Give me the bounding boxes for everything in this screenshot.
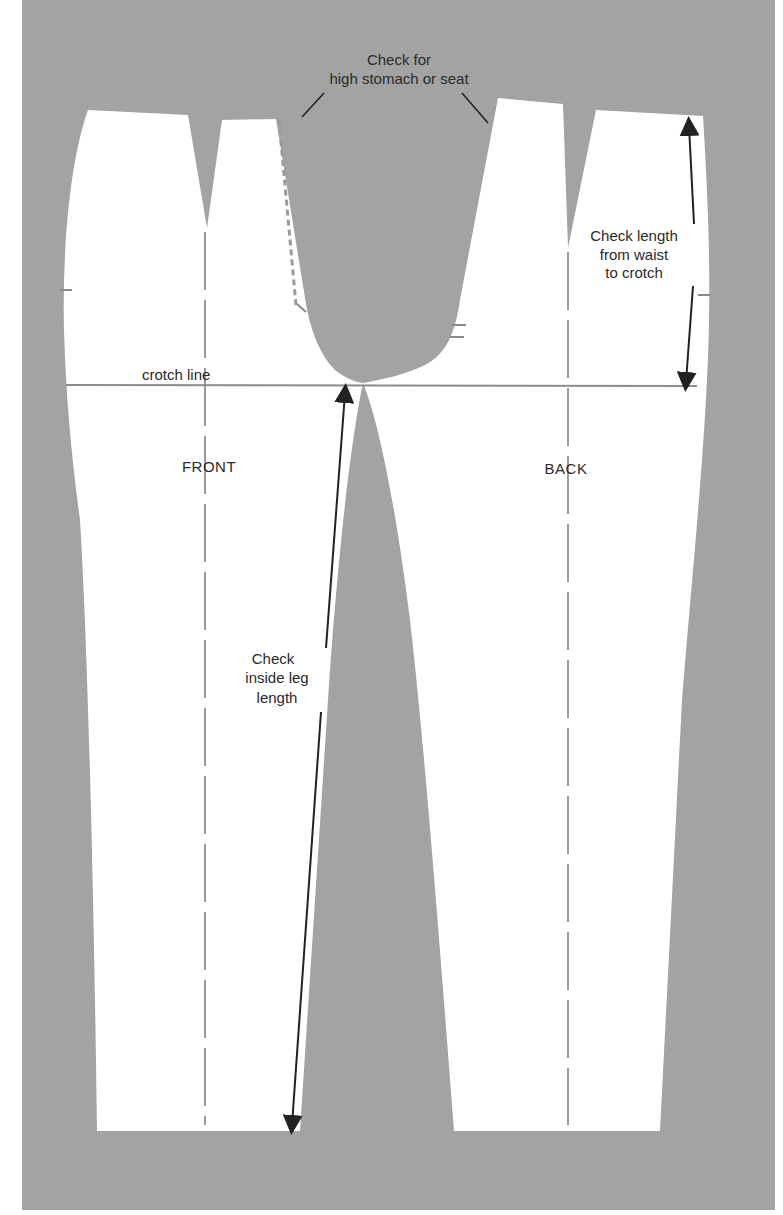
inside-leg-label-line1: Check <box>252 650 295 667</box>
crotch-line <box>66 385 697 386</box>
crotch-line-label: crotch line <box>142 366 210 383</box>
waist-crotch-label-line2: from waist <box>600 246 669 263</box>
front-label: FRONT <box>182 458 236 475</box>
diagram-canvas: Check for high stomach or seat Check len… <box>0 0 783 1215</box>
trouser-pattern-diagram: Check for high stomach or seat Check len… <box>0 0 783 1215</box>
inside-leg-label-line2: inside leg <box>245 669 308 686</box>
waist-crotch-label-line1: Check length <box>590 227 678 244</box>
high-stomach-label-line2: high stomach or seat <box>329 70 469 87</box>
inside-leg-label-line3: length <box>257 689 298 706</box>
high-stomach-label-line1: Check for <box>367 51 431 68</box>
back-label: BACK <box>545 460 588 477</box>
waist-crotch-label-line3: to crotch <box>605 264 663 281</box>
